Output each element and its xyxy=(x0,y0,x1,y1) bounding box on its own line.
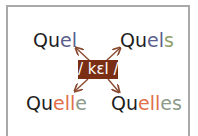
arrow-to-quelles-icon xyxy=(108,79,119,92)
arrow-to-quelle-icon xyxy=(75,79,88,91)
ipa-label: / kɛl / xyxy=(78,60,118,79)
